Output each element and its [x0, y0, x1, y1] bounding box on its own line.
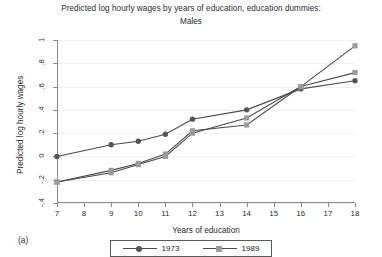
y-axis-title: Predicted log hourly wages — [16, 75, 25, 173]
x-axis-tick — [84, 203, 85, 207]
data-point-1973 — [244, 107, 249, 112]
data-point-1973 — [163, 132, 168, 137]
y-axis-tick-label: -.4 — [37, 194, 46, 212]
x-axis-tick — [220, 203, 221, 207]
legend-entry-1973: 1973 — [123, 244, 180, 253]
x-axis-tick — [57, 203, 58, 207]
y-axis-tick-label: .4 — [37, 100, 46, 118]
x-axis-tick-label: 9 — [101, 209, 121, 218]
data-point-1973 — [108, 142, 113, 147]
series-line-1973 — [57, 81, 355, 157]
panel-label: (a) — [18, 235, 28, 245]
data-point-1973 — [352, 78, 357, 83]
x-axis-title: Years of education — [57, 226, 355, 235]
x-axis-tick-label: 12 — [182, 209, 202, 218]
x-axis-tick — [301, 203, 302, 207]
chart-title: Predicted log hourly wages by years of e… — [0, 2, 382, 28]
x-axis-tick-label: 17 — [318, 209, 338, 218]
x-axis-tick-label: 16 — [291, 209, 311, 218]
x-axis-tick-label: 10 — [128, 209, 148, 218]
data-point-1989-fitted — [244, 115, 249, 120]
x-axis-tick-label: 7 — [47, 209, 67, 218]
x-axis-tick — [328, 203, 329, 207]
legend-entry-1989: 1989 — [203, 244, 260, 253]
series-line-1989-fitted — [57, 73, 355, 182]
data-point-1989-fitted — [109, 170, 114, 175]
data-point-1973 — [54, 154, 59, 159]
x-axis-tick-label: 8 — [74, 209, 94, 218]
y-axis-tick-label: .8 — [37, 54, 46, 72]
data-point-1989-fitted — [190, 131, 195, 136]
data-point-1989 — [244, 122, 249, 127]
legend-label: 1973 — [159, 244, 180, 253]
legend-swatch-1989 — [203, 245, 237, 253]
y-axis-tick-label: -.2 — [37, 170, 46, 188]
chart-subtitle: Males — [0, 15, 382, 28]
y-axis-tick-label: 1 — [37, 31, 46, 49]
x-axis-tick — [111, 203, 112, 207]
chart-title-line-1: Predicted log hourly wages by years of e… — [0, 2, 382, 15]
data-point-1989-fitted — [352, 70, 357, 75]
data-point-1989 — [352, 43, 357, 48]
legend-marker-square-icon — [216, 246, 222, 252]
data-point-1973 — [136, 139, 141, 144]
x-axis-tick — [192, 203, 193, 207]
x-axis-tick — [138, 203, 139, 207]
x-axis-tick — [165, 203, 166, 207]
y-axis-tick-label: 0 — [37, 147, 46, 165]
x-axis-tick-label: 13 — [210, 209, 230, 218]
x-axis-tick — [274, 203, 275, 207]
gridline — [58, 203, 355, 204]
data-point-1973 — [190, 116, 195, 121]
plot-area — [57, 40, 355, 203]
data-point-1989-fitted — [136, 162, 141, 167]
data-series-layer — [57, 40, 355, 203]
x-axis-tick — [355, 203, 356, 207]
x-axis-tick — [247, 203, 248, 207]
legend-marker-circle-icon — [136, 246, 142, 252]
x-axis-tick-label: 11 — [155, 209, 175, 218]
x-axis-tick-label: 15 — [264, 209, 284, 218]
y-axis-tick-label: .2 — [37, 124, 46, 142]
x-axis-tick-label: 18 — [345, 209, 365, 218]
data-point-1989-fitted — [163, 154, 168, 159]
chart-figure: Predicted log hourly wages by years of e… — [0, 0, 382, 257]
legend-swatch-1973 — [123, 245, 157, 253]
series-line-1989 — [57, 46, 355, 182]
x-axis-tick-label: 14 — [237, 209, 257, 218]
chart-legend: 19731989 — [110, 240, 272, 257]
data-point-1989-fitted — [54, 179, 59, 184]
legend-label: 1989 — [239, 244, 260, 253]
y-axis-tick-label: .6 — [37, 77, 46, 95]
data-point-1989-fitted — [298, 84, 303, 89]
